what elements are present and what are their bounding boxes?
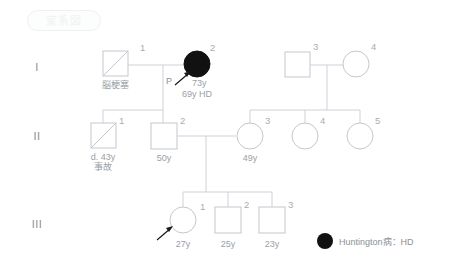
individual-number-i-3: 3 bbox=[313, 41, 318, 52]
individual-number-i-4: 4 bbox=[371, 41, 376, 52]
individual-number-ii-3: 3 bbox=[265, 115, 270, 126]
individual-ii-3[interactable]: 3 49y bbox=[237, 115, 270, 163]
individual-caption2-i-2: 69y HD bbox=[182, 89, 213, 99]
individual-caption-ii-2: 50y bbox=[157, 153, 172, 163]
pedigree-diagram: I II III 1 bbox=[0, 0, 451, 258]
proband-letter-i-2: P bbox=[166, 76, 172, 86]
legend-affected-symbol-icon bbox=[317, 233, 333, 249]
individual-number-iii-3: 3 bbox=[288, 199, 293, 210]
generation-label-1: I bbox=[35, 61, 39, 73]
symbol-circle-ii-5[interactable] bbox=[347, 123, 373, 149]
generation-label-3: III bbox=[32, 218, 43, 230]
individual-number-iii-1: 1 bbox=[200, 201, 205, 212]
individual-caption-iii-2: 25y bbox=[221, 239, 236, 249]
individual-ii-5[interactable]: 5 bbox=[347, 115, 380, 149]
symbol-square-i-3[interactable] bbox=[285, 52, 310, 77]
individual-caption-iii-1: 27y bbox=[176, 239, 191, 249]
individual-ii-1[interactable]: 1 d. 43y 事故 bbox=[91, 115, 125, 172]
individual-number-i-1: 1 bbox=[140, 42, 145, 53]
legend-label: Huntington病：HD bbox=[339, 236, 414, 247]
individual-number-ii-4: 4 bbox=[320, 115, 325, 126]
individual-i-3[interactable]: 3 bbox=[285, 41, 318, 77]
individual-caption-ii-1: d. 43y bbox=[91, 152, 116, 162]
symbol-square-ii-2[interactable] bbox=[151, 123, 177, 149]
individual-number-ii-5: 5 bbox=[375, 115, 380, 126]
symbol-square-iii-3[interactable] bbox=[259, 207, 285, 233]
individual-i-2[interactable]: 2 P 73y 69y HD bbox=[166, 42, 215, 99]
individual-ii-4[interactable]: 4 bbox=[292, 115, 325, 149]
individual-caption-i-1: 脳梗塞 bbox=[102, 79, 129, 90]
generation-label-2: II bbox=[33, 130, 40, 142]
individual-number-ii-1: 1 bbox=[119, 115, 124, 126]
individual-ii-2[interactable]: 2 50y bbox=[151, 115, 185, 163]
individual-iii-2[interactable]: 2 25y bbox=[215, 199, 249, 249]
individual-number-iii-2: 2 bbox=[244, 199, 249, 210]
pedigree-chart-root: 家系図 I II III bbox=[0, 0, 451, 258]
individual-caption2-ii-1: 事故 bbox=[94, 161, 112, 172]
symbol-circle-iii-1[interactable] bbox=[170, 207, 196, 233]
individual-number-ii-2: 2 bbox=[180, 115, 185, 126]
individual-caption-ii-3: 49y bbox=[243, 153, 258, 163]
individual-i-4[interactable]: 4 bbox=[343, 41, 376, 77]
individual-number-i-2: 2 bbox=[210, 42, 215, 53]
symbol-square-iii-2[interactable] bbox=[215, 207, 241, 233]
individual-caption-i-2: 73y bbox=[192, 78, 207, 88]
individual-caption-iii-3: 23y bbox=[265, 239, 280, 249]
legend: Huntington病：HD bbox=[317, 233, 414, 249]
symbol-circle-i-4[interactable] bbox=[343, 51, 369, 77]
symbol-circle-ii-3[interactable] bbox=[237, 123, 263, 149]
individual-i-1[interactable]: 1 脳梗塞 bbox=[102, 42, 146, 90]
individual-iii-3[interactable]: 3 23y bbox=[259, 199, 293, 249]
symbol-circle-ii-4[interactable] bbox=[292, 123, 318, 149]
individual-iii-1[interactable]: 1 27y bbox=[157, 201, 205, 249]
